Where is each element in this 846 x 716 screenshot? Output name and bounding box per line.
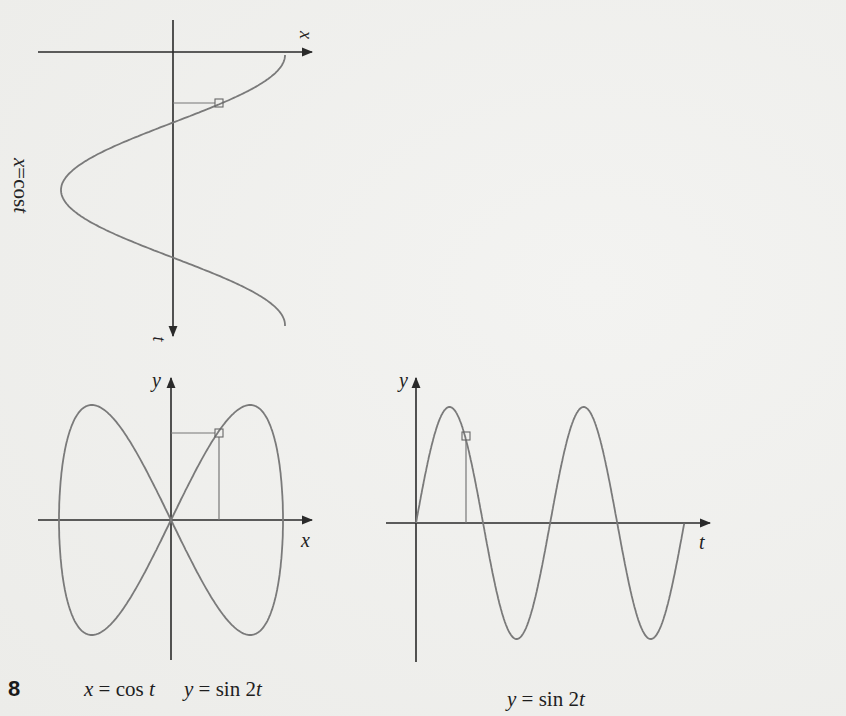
top-graph [38, 20, 312, 336]
caption-var: x [84, 677, 93, 701]
caption-eq: = [193, 677, 215, 701]
top-x-axis-label: x [297, 31, 315, 39]
top-t-axis-label: t [150, 336, 168, 341]
label-eq: = [8, 167, 33, 179]
label-var: x [9, 157, 33, 166]
right-graph [386, 378, 710, 662]
textbook-page: x = cos t x t y x y t 8 x = cos t y = si… [0, 0, 846, 716]
caption-arg: t [579, 687, 585, 711]
caption-arg: t [149, 677, 155, 701]
caption-arg: t [256, 677, 262, 701]
label-fn: cos [8, 179, 33, 207]
left-x-axis-label: x [301, 530, 310, 550]
right-caption: y = sin 2t [507, 687, 585, 712]
right-t-axis-label: t [699, 532, 705, 552]
caption-fn: cos [116, 677, 149, 701]
caption-eq: = [93, 677, 115, 701]
figure-number: 8 [8, 676, 20, 702]
caption-var: y [507, 687, 516, 711]
caption-eq: = [516, 687, 538, 711]
top-graph-rotated-label: x = cos t [8, 130, 32, 240]
right-y-axis-label: y [399, 370, 408, 390]
label-arg: t [9, 207, 33, 213]
left-caption-x: x = cos t [84, 677, 155, 702]
figure-graphics [0, 0, 846, 716]
caption-var: y [184, 677, 193, 701]
left-y-axis-label: y [152, 370, 161, 390]
left-caption-y: y = sin 2t [184, 677, 262, 702]
caption-fn: sin 2 [216, 677, 256, 701]
left-graph [38, 378, 312, 660]
caption-fn: sin 2 [539, 687, 579, 711]
